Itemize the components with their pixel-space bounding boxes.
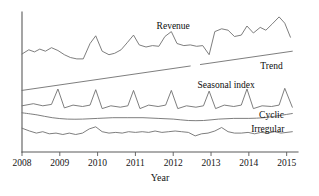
series-paths-group	[22, 17, 292, 136]
series-annotations-group: RevenueTrendSeasonal indexCyclicIrregula…	[157, 21, 286, 135]
cyclic-label: Cyclic	[259, 110, 284, 120]
x-axis-tick-label: 2012	[164, 158, 183, 168]
trend-label: Trend	[260, 61, 283, 71]
x-axis-ticks	[22, 152, 287, 156]
seasonal-index-label: Seasonal index	[198, 80, 256, 90]
x-axis-tick-label: 2008	[13, 158, 32, 168]
x-axis-tick-label: 2011	[126, 158, 145, 168]
x-axis-tick-labels: 20082009201020112012201320142015	[13, 158, 297, 168]
chart-canvas: 20082009201020112012201320142015 Revenue…	[0, 0, 319, 196]
time-series-decomposition-chart: 20082009201020112012201320142015 Revenue…	[0, 0, 319, 196]
series-line-seasonal-index	[22, 88, 292, 108]
x-axis-title: Year	[151, 172, 170, 183]
x-axis-tick-label: 2010	[88, 158, 107, 168]
irregular-label: Irregular	[251, 124, 285, 134]
series-line-trend-segment-1	[22, 66, 190, 90]
x-axis-tick-label: 2015	[277, 158, 296, 168]
x-axis-tick-label: 2009	[50, 158, 69, 168]
revenue-label: Revenue	[157, 21, 190, 31]
x-axis-tick-label: 2013	[202, 158, 221, 168]
series-line-cyclic	[22, 113, 292, 121]
x-axis-tick-label: 2014	[239, 158, 258, 168]
